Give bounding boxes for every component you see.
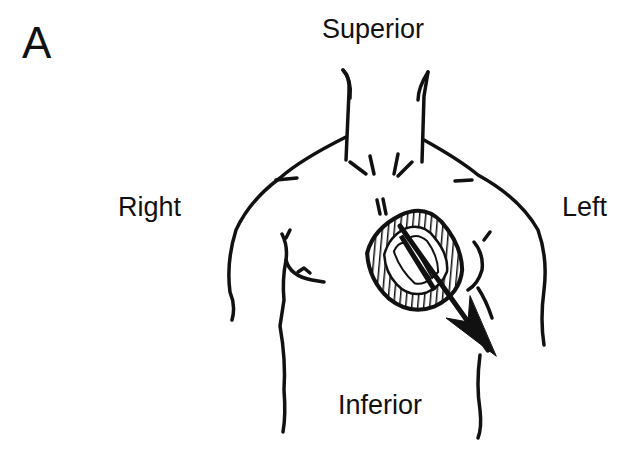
torso-diagram <box>0 0 639 461</box>
